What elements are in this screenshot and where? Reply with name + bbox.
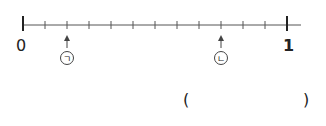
answer-open-paren: (	[183, 90, 189, 109]
answer-blank[interactable]	[195, 88, 300, 110]
marker-b: ㄴ	[215, 35, 228, 65]
answer-close-paren: )	[303, 90, 309, 109]
arrow-up-icon	[64, 35, 70, 41]
marker-b-glyph: ㄴ	[217, 54, 225, 64]
label-one: 1	[283, 36, 294, 55]
label-zero: 0	[16, 36, 26, 55]
marker-a-glyph: ㄱ	[63, 54, 71, 64]
marker-a: ㄱ	[61, 35, 74, 65]
arrow-up-icon	[218, 35, 224, 41]
